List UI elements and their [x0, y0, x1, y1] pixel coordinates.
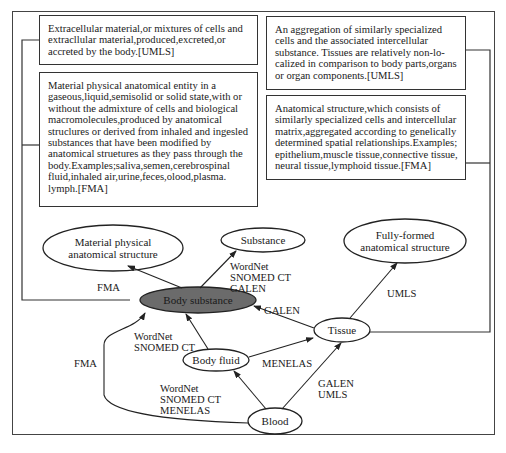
label-tissue: Tissue: [314, 319, 370, 341]
edge-label-galen-tissue: GALEN: [264, 305, 300, 316]
definition-tissue-fma: Anatomical structure,which consists of s…: [266, 95, 466, 180]
edge-label-umls-fully-formed: UMLS: [387, 288, 416, 299]
label-material-physical: Material physical anatomical structure: [43, 226, 183, 270]
label-fully-formed: Fully-formed anatomical structure: [344, 219, 466, 263]
label-substance: Substance: [221, 229, 305, 251]
edge-blood-body-fluid: [234, 371, 266, 409]
edge-label-fma-material: FMA: [97, 282, 120, 293]
edge-label-blood-tissue: GALEN UMLS: [318, 378, 354, 400]
edge-label-fma-blood: FMA: [74, 358, 97, 369]
definition-substance-fma: Material physical anatomical entity in a…: [39, 72, 258, 207]
definition-substance-umls: Extracellular material,or mixtures of ce…: [39, 15, 258, 65]
ontology-diagram: Extracellular material,or mixtures of ce…: [0, 0, 506, 453]
label-blood: Blood: [248, 409, 302, 433]
definition-tissue-umls: An aggregation of similarly specialized …: [266, 16, 466, 90]
edge-body-fluid-tissue: [249, 338, 313, 357]
edge-label-body-fluid-body-substance: WordNet SNOMED CT: [134, 331, 195, 353]
edge-label-menelas: MENELAS: [262, 358, 312, 369]
edge-label-substance: WordNet SNOMED CT GALEN: [230, 261, 291, 295]
edge-label-blood-body-fluid: WordNet SNOMED CT MENELAS: [160, 383, 221, 417]
